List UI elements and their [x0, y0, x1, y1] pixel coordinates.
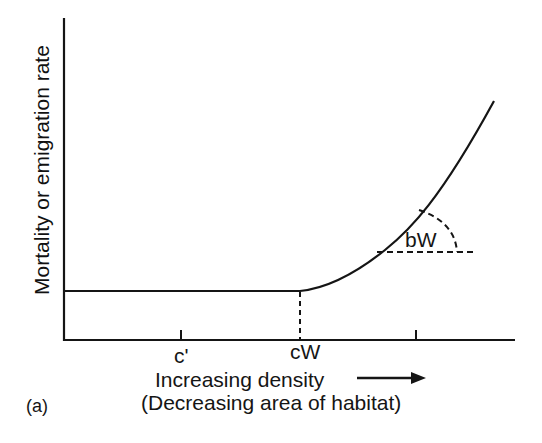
bw-annotation: bW: [405, 228, 437, 252]
tick-label-cw: cW: [290, 340, 320, 364]
x-direction-arrow-icon: [411, 372, 426, 384]
x-axis-label-line1: Increasing density: [155, 368, 324, 392]
tick-label-c-prime: c': [174, 344, 189, 368]
rate-curve: [64, 101, 494, 291]
panel-label: (a): [26, 396, 48, 417]
y-axis-label: Mortality or emigration rate: [30, 45, 54, 295]
x-axis-label-line2: (Decreasing area of habitat): [141, 391, 401, 415]
